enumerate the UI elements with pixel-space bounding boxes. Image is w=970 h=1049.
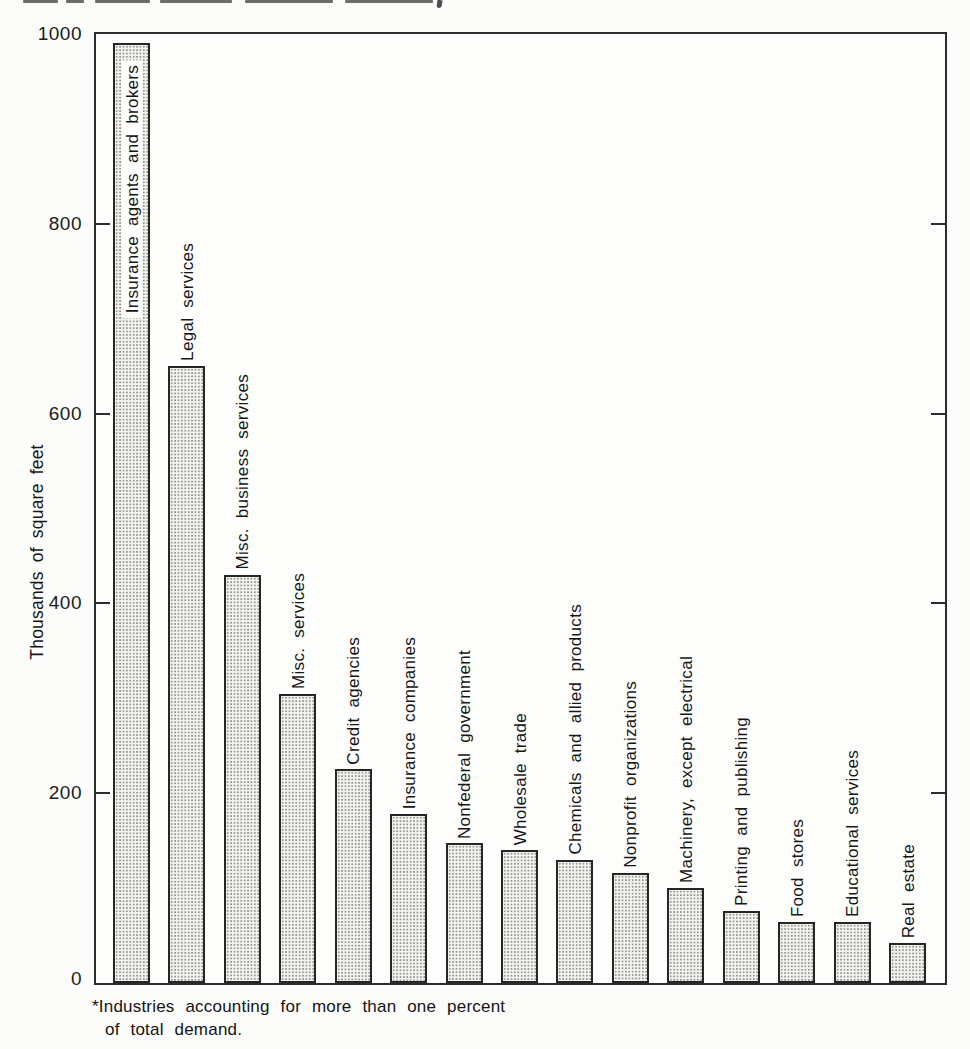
y-axis-title: Thousands of square feet xyxy=(27,444,48,659)
y-tick-mark xyxy=(931,413,945,415)
y-tick-label: 200 xyxy=(16,782,82,804)
bar-label: Printing and publishing xyxy=(731,717,752,906)
y-tick-label: 800 xyxy=(16,213,82,235)
bar xyxy=(446,843,483,983)
bar-label: Wholesale trade xyxy=(509,713,530,845)
cropped-text-fragment xyxy=(245,0,333,3)
cropped-text-fragment xyxy=(23,0,58,3)
y-tick-label: 600 xyxy=(16,403,82,425)
bar xyxy=(834,922,871,983)
bar xyxy=(778,922,815,983)
bar-label: Machinery, except electrical xyxy=(675,656,696,883)
y-tick-mark xyxy=(96,223,110,225)
bar-label: Nonprofit organizations xyxy=(620,681,641,868)
bar-label: Chemicals and allied products xyxy=(564,604,585,855)
y-tick-mark xyxy=(96,792,110,794)
bar-label: Misc. services xyxy=(287,573,308,689)
bar xyxy=(168,366,205,983)
cropped-text-fragment xyxy=(345,0,433,3)
y-tick-mark xyxy=(96,602,110,604)
bar xyxy=(723,911,760,983)
y-tick-label: 1000 xyxy=(16,23,82,45)
bar xyxy=(335,769,372,983)
bar-label: Educational services xyxy=(842,750,863,917)
bar xyxy=(556,860,593,983)
footnote-line-1: *Industries accounting for more than one… xyxy=(92,996,505,1018)
bar xyxy=(501,850,538,983)
bar xyxy=(224,575,261,983)
bar xyxy=(667,888,704,983)
bar-label: Credit agencies xyxy=(343,637,364,765)
y-tick-mark xyxy=(931,223,945,225)
y-tick-label: 0 xyxy=(16,968,82,990)
bar-label: Insurance agents and brokers xyxy=(121,60,142,318)
bar xyxy=(279,694,316,983)
bar xyxy=(612,873,649,983)
bar-label: Legal services xyxy=(176,243,197,361)
footnote-line-2: of total demand. xyxy=(105,1019,242,1041)
y-tick-mark xyxy=(931,792,945,794)
y-tick-label: 400 xyxy=(16,592,82,614)
chart-page: Thousands of square feet *Industries acc… xyxy=(0,0,970,1049)
bar xyxy=(390,814,427,983)
bar xyxy=(889,943,926,983)
cropped-text-descender xyxy=(436,0,442,8)
y-tick-mark xyxy=(96,413,110,415)
cropped-text-fragment xyxy=(66,0,84,3)
cropped-text-fragment xyxy=(95,0,150,3)
bar-label: Misc. business services xyxy=(232,374,253,569)
bar-label: Real estate xyxy=(897,844,918,938)
cropped-text-fragment xyxy=(160,0,232,3)
bar-label: Food stores xyxy=(786,819,807,917)
bar-label: Nonfederal government xyxy=(454,650,475,839)
y-tick-mark xyxy=(931,602,945,604)
bar-label: Insurance companies xyxy=(398,637,419,809)
